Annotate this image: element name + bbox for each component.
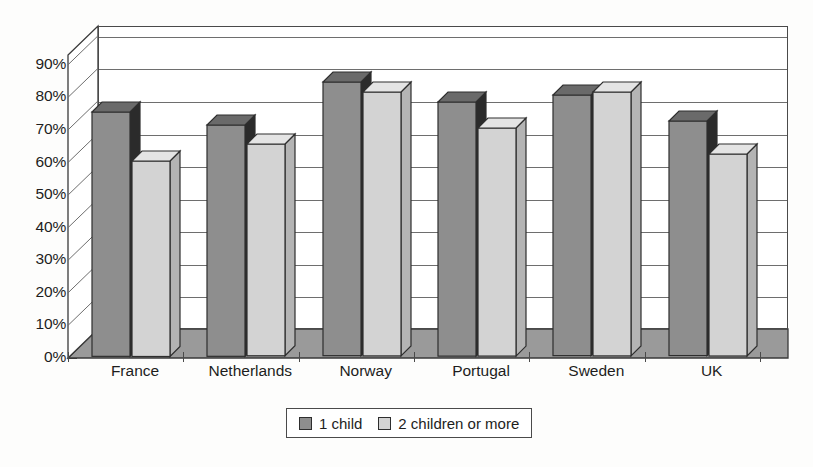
bar-front-face [132,161,170,356]
legend-entry-2: 2 children or more [378,415,519,432]
bar-netherlands-series-2 [247,146,285,358]
gridline [99,69,787,70]
bar-3d-shape [709,144,759,358]
bar-3d-shape [132,151,182,358]
bar-front-face [438,102,476,356]
bar-3d-shape [478,118,528,358]
bar-side-face [401,82,411,356]
bar-side-face [747,144,757,356]
bar-netherlands-series-1 [207,127,245,358]
y-axis-tick-label: 10% [36,315,66,333]
chart-legend: 1 child2 children or more [286,408,532,438]
bar-side-face [170,151,180,356]
bar-uk-series-2 [709,156,747,358]
legend-swatch-icon [299,417,312,430]
bar-uk-series-1 [669,123,707,358]
bar-front-face [207,125,245,356]
gridline [99,37,787,38]
bar-front-face [669,121,707,356]
y-axis-tick-label: 20% [36,283,66,301]
bar-norway-series-1 [323,84,361,358]
bar-front-face [593,92,631,356]
x-axis-label-france: France [75,362,195,380]
x-axis-label-netherlands: Netherlands [190,362,310,380]
bar-sweden-series-2 [593,94,631,358]
plot-area [68,26,790,358]
bar-chart: 0%10%20%30%40%50%60%70%80%90% FranceNeth… [0,0,813,467]
bar-front-face [323,82,361,356]
bar-front-face [553,95,591,356]
y-axis-tick-label: 80% [36,87,66,105]
y-axis-tick-label: 60% [36,153,66,171]
bar-front-face [247,144,285,356]
x-axis-tick-mark [760,352,761,362]
y-axis-tick-label: 50% [36,185,66,203]
bar-sweden-series-1 [553,97,591,358]
y-axis-tick-label: 40% [36,218,66,236]
legend-entry-1: 1 child [299,415,362,432]
x-axis-category-labels: FranceNetherlandsNorwayPortugalSwedenUK [68,362,790,392]
bar-3d-shape [363,82,413,358]
bar-portugal-series-2 [478,130,516,358]
x-axis-tick-mark [68,352,69,362]
legend-swatch-icon [378,417,391,430]
bar-side-face [631,82,641,356]
bar-side-face [516,118,526,356]
y-axis-tick-label: 0% [44,348,66,366]
legend-label: 2 children or more [398,415,519,432]
bar-front-face [92,112,130,356]
x-axis-tick-mark [529,352,530,362]
x-axis-tick-mark [645,352,646,362]
x-axis-label-sweden: Sweden [536,362,656,380]
x-axis-tick-mark [299,352,300,362]
bar-front-face [363,92,401,356]
bar-front-face [709,154,747,356]
y-axis-tick-labels: 0%10%20%30%40%50%60%70%80%90% [8,0,66,467]
x-axis-tick-mark [414,352,415,362]
y-axis-tick-label: 30% [36,250,66,268]
bar-portugal-series-1 [438,104,476,358]
bar-france-series-2 [132,163,170,358]
x-axis-label-norway: Norway [306,362,426,380]
bar-front-face [478,128,516,356]
bar-3d-shape [593,82,643,358]
x-axis-tick-mark [183,352,184,362]
bar-3d-shape [247,134,297,358]
x-axis-label-uk: UK [652,362,772,380]
bar-side-face [285,134,295,356]
x-axis-label-portugal: Portugal [421,362,541,380]
y-axis-tick-label: 70% [36,120,66,138]
y-axis-tick-label: 90% [36,55,66,73]
bar-norway-series-2 [363,94,401,358]
legend-label: 1 child [319,415,362,432]
bar-france-series-1 [92,114,130,358]
